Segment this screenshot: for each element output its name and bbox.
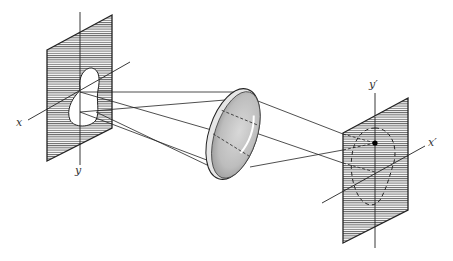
object-y-axis-label: y bbox=[74, 164, 82, 177]
diagram-canvas: x y x′ y′ bbox=[0, 0, 453, 261]
image-point bbox=[372, 140, 377, 145]
image-plane: x′ y′ bbox=[322, 78, 437, 248]
image-y-axis-label: y′ bbox=[368, 78, 378, 91]
lens-imaging-diagram: x y x′ y′ bbox=[0, 0, 453, 261]
ray bbox=[80, 112, 212, 162]
image-plane-screen bbox=[343, 98, 408, 243]
object-plane: x y bbox=[16, 12, 130, 177]
image-x-axis-label: x′ bbox=[428, 136, 437, 149]
object-x-axis-label: x bbox=[16, 116, 23, 129]
